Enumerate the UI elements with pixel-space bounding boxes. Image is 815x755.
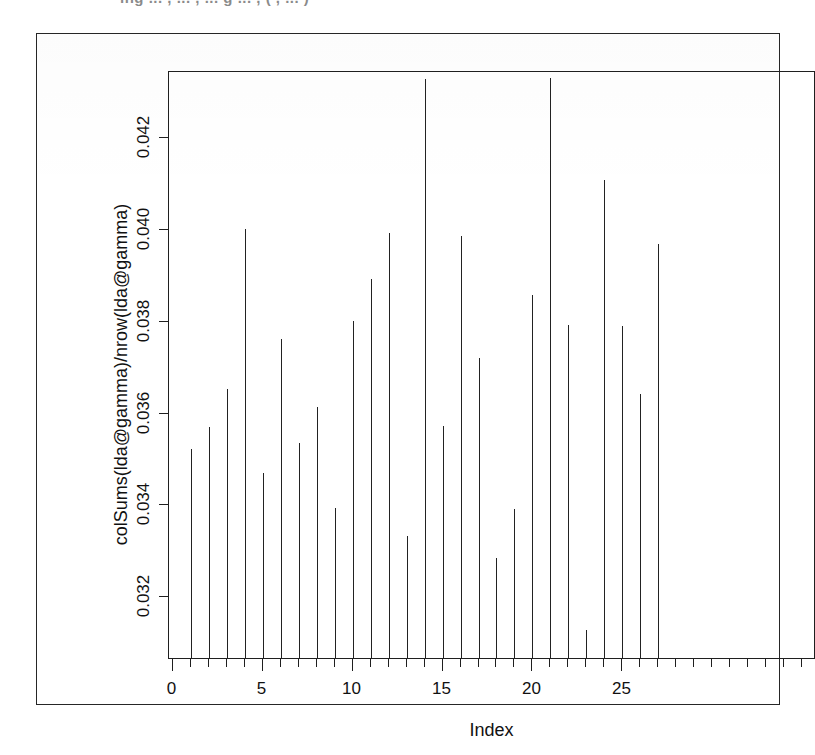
data-spike [640,394,641,658]
x-axis-minor-tick [657,658,658,667]
data-spike [227,389,228,658]
scanned-page-top-bleed: ing ... , ... , ... g ... , ( , ... ) [0,0,808,12]
x-axis-major-tick [262,658,263,671]
data-spike [407,536,408,658]
x-axis-tick-label: 20 [522,679,541,699]
data-spike [281,339,282,658]
x-axis-tick-label: 25 [612,679,631,699]
y-axis-tick [159,413,168,414]
top-bleed-text: ing ... , ... , ... g ... , ( , ... ) [120,0,309,6]
x-axis-minor-tick [639,658,640,667]
x-axis-tick-label: 15 [432,679,451,699]
x-axis-minor-tick [244,658,245,667]
data-spike [425,79,426,658]
y-axis-tick [159,321,168,322]
data-spike [461,236,462,658]
data-spike [496,558,497,658]
y-axis-tick-label: 0.038 [134,300,154,343]
x-axis-minor-tick [513,658,514,667]
data-spike [317,407,318,658]
x-axis-minor-tick [424,658,425,667]
x-axis-minor-tick [711,658,712,667]
data-spike [568,325,569,658]
x-axis-tick-label: 10 [342,679,361,699]
data-spike [550,78,551,658]
x-axis-minor-tick [729,658,730,667]
x-axis-minor-tick [567,658,568,667]
data-spike [209,427,210,658]
data-spike [622,326,623,658]
x-axis-minor-tick [388,658,389,667]
x-axis-minor-tick [801,658,802,667]
y-axis-tick [159,596,168,597]
x-axis-minor-tick [603,658,604,667]
x-axis-minor-tick [585,658,586,667]
plot-region [168,71,814,658]
data-spike [532,295,533,658]
data-spike [443,426,444,658]
data-spike [658,244,659,658]
x-axis-minor-tick [280,658,281,667]
data-spike [353,321,354,658]
x-axis-major-tick [172,658,173,671]
x-axis-minor-tick [693,658,694,667]
data-spike [389,233,390,658]
x-axis-minor-tick [370,658,371,667]
y-axis-tick [159,504,168,505]
x-axis-minor-tick [747,658,748,667]
data-spike [514,509,515,658]
data-spike [245,229,246,658]
data-spike [479,358,480,658]
x-axis-minor-tick [334,658,335,667]
x-axis-major-tick [621,658,622,671]
x-axis-minor-tick [765,658,766,667]
x-axis-tick-label: 5 [257,679,266,699]
y-axis-tick-label: 0.034 [134,483,154,526]
x-axis-title: Index [168,720,815,741]
y-axis-tick-label: 0.036 [134,391,154,434]
data-spike [335,508,336,658]
y-axis-tick-label: 0.040 [134,208,154,251]
x-axis-minor-tick [406,658,407,667]
data-spike [604,180,605,658]
data-spike [191,449,192,658]
x-axis-major-tick [531,658,532,671]
x-axis-tick-label: 0 [167,679,176,699]
x-axis-minor-tick [316,658,317,667]
y-axis-title: colSums(lda@gamma)/nrow(lda@gamma) [111,95,132,655]
x-axis-minor-tick [298,658,299,667]
x-axis-minor-tick [478,658,479,667]
x-axis-minor-tick [549,658,550,667]
y-axis-tick-label: 0.032 [134,575,154,618]
x-axis-minor-tick [460,658,461,667]
y-axis-tick [159,137,168,138]
y-axis-tick-label: 0.042 [134,116,154,159]
x-axis-minor-tick [675,658,676,667]
x-axis-minor-tick [208,658,209,667]
y-axis-tick [159,229,168,230]
data-spike [371,279,372,658]
data-spike [586,630,587,658]
x-axis-minor-tick [226,658,227,667]
data-spike [299,443,300,658]
x-axis-major-tick [352,658,353,671]
figure-frame: 0510152025 0.0320.0340.0360.0380.0400.04… [36,33,780,705]
x-axis-minor-tick [495,658,496,667]
data-spike [263,473,264,658]
x-axis-line [168,658,815,659]
x-axis-major-tick [442,658,443,671]
x-axis-minor-tick [190,658,191,667]
x-axis-minor-tick [783,658,784,667]
